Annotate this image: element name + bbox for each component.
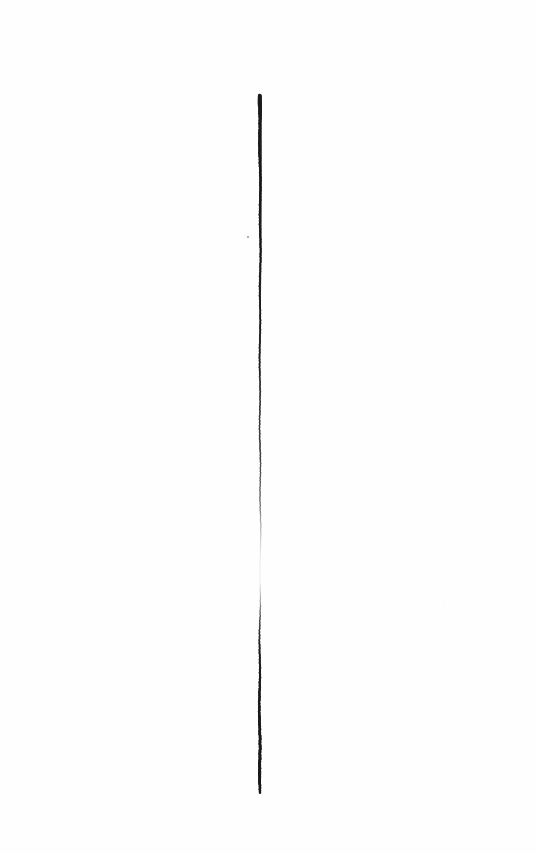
specimen-image <box>0 0 537 853</box>
scanned-page: A single long thin dark vertical stroke … <box>0 0 537 853</box>
